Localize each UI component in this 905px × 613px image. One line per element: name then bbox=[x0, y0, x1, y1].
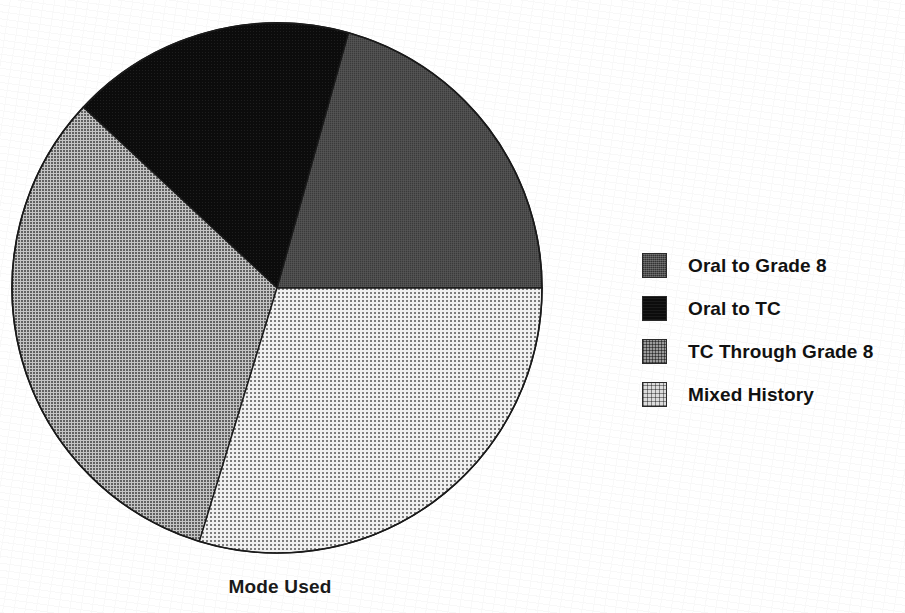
pie-chart-plot-area bbox=[6, 12, 554, 568]
legend-item-label: TC Through Grade 8 bbox=[688, 341, 873, 363]
legend-swatch-icon bbox=[642, 339, 667, 364]
legend-item-oral-to-grade-8[interactable]: Oral to Grade 8 bbox=[642, 244, 873, 287]
legend-item-oral-to-tc[interactable]: Oral to TC bbox=[642, 287, 873, 330]
legend-item-label: Oral to TC bbox=[688, 298, 781, 320]
chart-legend: Oral to Grade 8 Oral to TC TC Through Gr… bbox=[642, 244, 873, 416]
legend-item-label: Oral to Grade 8 bbox=[688, 255, 827, 277]
legend-swatch-icon bbox=[642, 253, 667, 278]
pie-chart-figure: Mode Used Oral to Grade 8 Oral to TC TC … bbox=[0, 0, 905, 613]
legend-item-tc-through-grade-8[interactable]: TC Through Grade 8 bbox=[642, 330, 873, 373]
pie-chart-svg bbox=[6, 12, 554, 568]
legend-swatch-icon bbox=[642, 296, 667, 321]
legend-swatch-icon bbox=[642, 382, 667, 407]
legend-item-mixed-history[interactable]: Mixed History bbox=[642, 373, 873, 416]
legend-item-label: Mixed History bbox=[688, 384, 814, 406]
chart-axis-label: Mode Used bbox=[0, 576, 560, 598]
